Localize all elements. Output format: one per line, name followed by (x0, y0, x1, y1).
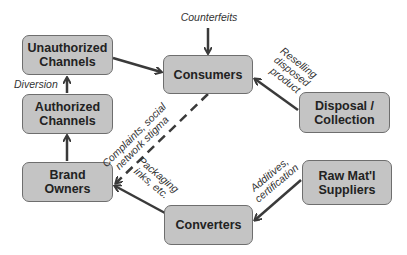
node-disposal-collection: Disposal / Collection (299, 92, 390, 133)
node-unauthorized-channels: Unauthorized Channels (22, 35, 113, 75)
label-diversion: Diversion (14, 79, 64, 90)
node-converters: Converters (164, 205, 253, 245)
unauthorized-to-consumers-arrow (113, 58, 161, 72)
node-raw-suppliers: Raw Mat'l Suppliers (302, 160, 392, 205)
node-consumers: Consumers (163, 55, 253, 94)
node-authorized-channels: Authorized Channels (22, 94, 113, 134)
label-counterfeits: Counterfeits (174, 12, 244, 23)
